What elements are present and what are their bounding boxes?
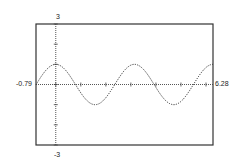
y-max-label: 3 [56,13,60,20]
y-min-label: -3 [54,151,60,158]
x-max-label: 6.28 [215,80,229,87]
x-min-label: -0.79 [16,80,32,87]
plot-area [0,0,242,164]
axes [36,24,213,145]
